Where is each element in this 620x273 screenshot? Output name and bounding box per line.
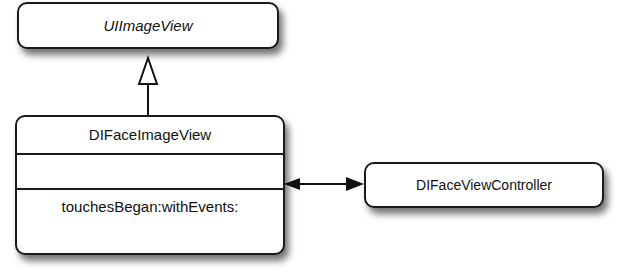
inheritance-arrow-icon <box>139 58 157 84</box>
attributes-compartment <box>17 155 283 190</box>
class-name: UIImageView <box>19 4 277 47</box>
class-name: DIFaceViewController <box>366 164 602 206</box>
class-difaceimageview: DIFaceImageView touchesBegan:withEvents: <box>15 115 285 255</box>
class-uiimageview: UIImageView <box>17 2 279 49</box>
arrowhead-left-icon <box>284 178 300 190</box>
class-difaceviewcontroller: DIFaceViewController <box>364 162 604 208</box>
arrowhead-right-icon <box>346 177 364 191</box>
method: touchesBegan:withEvents: <box>17 190 283 224</box>
class-name: DIFaceImageView <box>17 117 283 155</box>
